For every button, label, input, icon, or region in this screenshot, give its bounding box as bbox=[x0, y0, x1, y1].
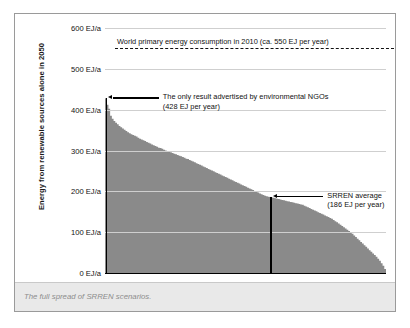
figure-card: Energy from renewable sources alone in 2… bbox=[14, 13, 396, 312]
gridline bbox=[105, 273, 386, 274]
leader-line-ngo-result bbox=[113, 97, 159, 98]
annotation-line-2: (186 EJ per year) bbox=[327, 200, 384, 209]
y-tick-label: 200 EJ/a bbox=[71, 187, 101, 196]
caption-text: The full spread of SRREN scenarios. bbox=[24, 292, 151, 301]
y-tick-label: 0 EJ/a bbox=[79, 269, 101, 278]
arrow-head-ngo-result bbox=[108, 95, 112, 99]
arrow-head-srren-average bbox=[273, 194, 277, 198]
annotation-ngo-result: The only result advertised by environmen… bbox=[163, 92, 329, 111]
annotation-line-1: The only result advertised by environmen… bbox=[163, 92, 329, 101]
reference-line-label: World primary energy consumption in 2010… bbox=[117, 37, 329, 46]
leader-line-srren-average bbox=[277, 196, 323, 197]
gridline bbox=[105, 151, 386, 152]
gridline bbox=[105, 232, 386, 233]
gridline bbox=[105, 28, 386, 29]
caption-bar: The full spread of SRREN scenarios. bbox=[15, 282, 395, 311]
annotation-line-2: (428 EJ per year) bbox=[163, 102, 329, 111]
y-axis-title: Energy from renewable sources alone in 2… bbox=[37, 27, 46, 227]
y-tick-label: 100 EJ/a bbox=[71, 228, 101, 237]
y-tick-label: 400 EJ/a bbox=[71, 105, 101, 114]
reference-line-world-primary-energy-2010 bbox=[115, 48, 394, 49]
y-tick-label: 300 EJ/a bbox=[71, 146, 101, 155]
annotation-srren-average: SRREN average(186 EJ per year) bbox=[327, 191, 384, 210]
y-tick-label: 500 EJ/a bbox=[71, 64, 101, 73]
annotation-line-1: SRREN average bbox=[327, 191, 382, 200]
gridline bbox=[105, 69, 386, 70]
marker-line-srren-average bbox=[270, 197, 272, 273]
plot-area: 0 EJ/a100 EJ/a200 EJ/a300 EJ/a400 EJ/a50… bbox=[105, 28, 386, 273]
marker-line-ngo-result bbox=[106, 98, 108, 273]
chart-region: Energy from renewable sources alone in 2… bbox=[15, 14, 395, 284]
y-tick-label: 600 EJ/a bbox=[71, 24, 101, 33]
